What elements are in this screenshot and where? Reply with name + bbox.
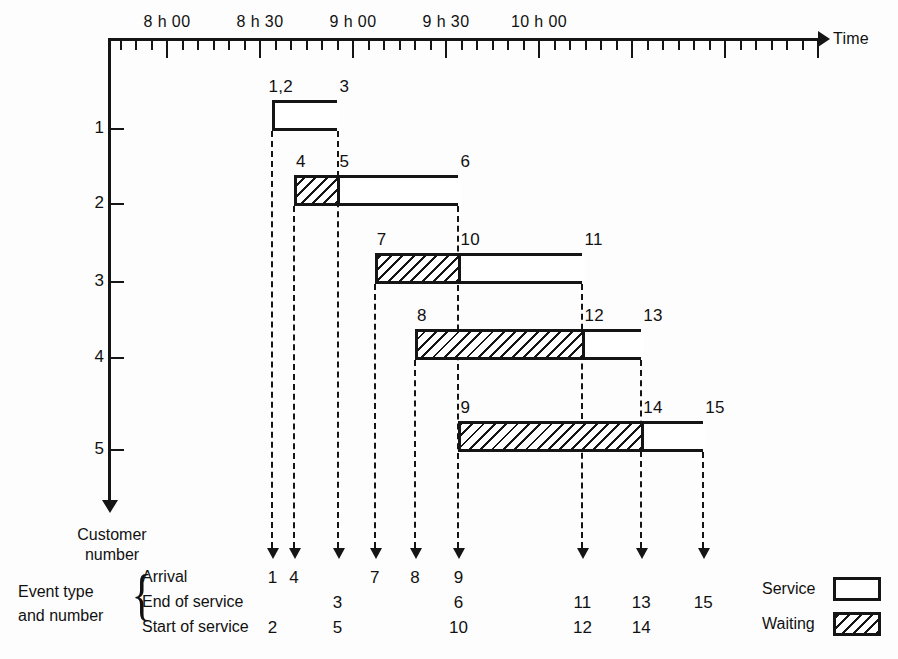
time-tick-minor xyxy=(275,41,277,50)
time-tick-minor xyxy=(523,41,525,50)
legend-swatch-waiting xyxy=(833,612,881,636)
row-label-start-of-service: Start of service xyxy=(142,618,249,636)
time-tick-minor xyxy=(771,41,773,50)
time-tick-minor xyxy=(507,41,509,50)
event-number-end-of-service: 13 xyxy=(632,593,651,613)
bar-event-number: 15 xyxy=(705,398,725,418)
event-dropline-arrowhead xyxy=(267,548,279,559)
event-dropline xyxy=(271,131,273,549)
event-number-end-of-service: 15 xyxy=(694,593,713,613)
time-tick-major xyxy=(166,41,168,58)
bar-event-number: 3 xyxy=(340,77,350,97)
bar-event-number: 11 xyxy=(584,230,602,250)
time-tick-minor xyxy=(151,41,153,50)
customer-tick-label: 3 xyxy=(84,271,104,291)
time-tick-minor xyxy=(585,41,587,50)
waiting-segment xyxy=(418,332,585,357)
event-number-start-of-service: 12 xyxy=(573,618,592,638)
bar-event-number: 4 xyxy=(296,152,306,172)
time-tick-minor xyxy=(430,41,432,50)
event-dropline xyxy=(374,284,376,549)
time-tick-major xyxy=(445,41,447,58)
time-tick-minor xyxy=(740,41,742,50)
customer-bar xyxy=(458,421,703,452)
event-dropline-arrowhead xyxy=(333,548,345,559)
time-tick-label: 10 h 00 xyxy=(511,13,567,31)
service-segment xyxy=(585,332,644,357)
event-dropline-arrowhead xyxy=(370,548,382,559)
time-tick-minor xyxy=(569,41,571,50)
waiting-segment xyxy=(461,424,644,449)
time-tick-major xyxy=(631,41,633,58)
time-tick-minor xyxy=(135,41,137,50)
event-dropline xyxy=(640,360,642,549)
time-tick-label: 9 h 30 xyxy=(423,13,470,31)
time-tick-minor xyxy=(755,41,757,50)
event-dropline-arrowhead xyxy=(410,548,422,559)
legend-swatch-service xyxy=(833,577,881,601)
time-tick-minor xyxy=(492,41,494,50)
bar-event-number: 5 xyxy=(340,152,350,172)
event-number-start-of-service: 14 xyxy=(632,618,651,638)
event-number-arrival: 4 xyxy=(289,568,298,588)
time-tick-minor xyxy=(554,41,556,50)
customer-tick xyxy=(111,357,124,359)
time-tick-major xyxy=(259,41,261,58)
customer-bar xyxy=(294,175,458,206)
event-number-end-of-service: 6 xyxy=(454,593,463,613)
event-dropline-arrowhead xyxy=(698,548,710,559)
time-tick-minor xyxy=(802,41,804,50)
event-dropline xyxy=(293,206,295,549)
time-tick-minor xyxy=(786,41,788,50)
time-tick-minor xyxy=(383,41,385,50)
event-dropline xyxy=(581,284,583,549)
bar-event-number: 12 xyxy=(584,306,604,326)
time-tick-minor xyxy=(321,41,323,50)
customer-bar xyxy=(415,329,641,360)
time-tick-minor xyxy=(414,41,416,50)
gantt-chart-figure: Time 8 h 008 h 309 h 009 h 3010 h 00 123… xyxy=(0,0,898,659)
customer-axis-line xyxy=(108,38,111,506)
customer-tick xyxy=(111,449,124,451)
event-number-arrival: 7 xyxy=(370,568,379,588)
time-tick-minor xyxy=(120,41,122,50)
event-type-caption: Event type and number xyxy=(18,580,138,628)
time-tick-minor xyxy=(616,41,618,50)
event-number-arrival: 8 xyxy=(410,568,419,588)
bar-event-number: 14 xyxy=(643,398,663,418)
event-caption-line1: Event type xyxy=(18,580,138,604)
service-segment xyxy=(461,256,585,281)
event-number-arrival: 1 xyxy=(268,568,277,588)
time-tick-major xyxy=(817,41,819,58)
event-dropline xyxy=(414,360,416,549)
event-number-start-of-service: 10 xyxy=(449,618,468,638)
customer-tick-label: 2 xyxy=(84,193,104,213)
time-tick-minor xyxy=(337,41,339,50)
row-label-end-of-service: End of service xyxy=(142,593,243,611)
bar-event-number: 9 xyxy=(460,398,470,418)
time-tick-minor xyxy=(306,41,308,50)
bar-event-number: 7 xyxy=(377,230,387,250)
event-number-end-of-service: 11 xyxy=(574,593,592,613)
legend-label-service: Service xyxy=(762,580,815,598)
time-tick-minor xyxy=(678,41,680,50)
event-number-arrival: 9 xyxy=(454,568,463,588)
event-number-start-of-service: 2 xyxy=(268,618,277,638)
event-dropline-arrowhead xyxy=(636,548,648,559)
bar-event-number: 10 xyxy=(460,230,480,250)
time-axis-arrowhead xyxy=(818,31,830,47)
row-label-arrival: Arrival xyxy=(142,568,187,586)
bar-event-number: 6 xyxy=(460,152,470,172)
time-tick-minor xyxy=(476,41,478,50)
legend-label-waiting: Waiting xyxy=(762,615,815,633)
waiting-segment xyxy=(378,256,462,281)
bar-event-number: 1,2 xyxy=(268,77,293,97)
event-dropline-arrowhead xyxy=(577,548,589,559)
customer-bar xyxy=(375,253,583,284)
time-tick-minor xyxy=(709,41,711,50)
event-number-start-of-service: 5 xyxy=(333,618,342,638)
time-tick-label: 8 h 00 xyxy=(144,13,191,31)
customer-tick-label: 5 xyxy=(84,439,104,459)
time-tick-minor xyxy=(197,41,199,50)
time-tick-label: 9 h 00 xyxy=(330,13,377,31)
